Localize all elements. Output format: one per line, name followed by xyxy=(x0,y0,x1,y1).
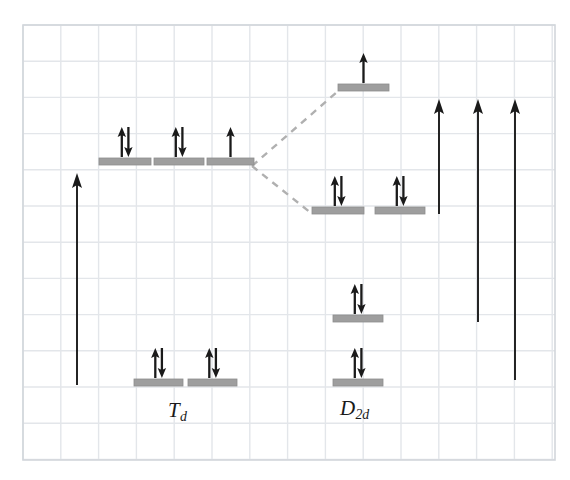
label-d2d-subscript: 2d xyxy=(355,407,369,422)
electron-d2d-low-1-down xyxy=(357,284,365,314)
energy-level-td-upper-3 xyxy=(207,158,254,165)
energy-level-td-lower-1 xyxy=(134,379,183,386)
energy-level-td-lower-2 xyxy=(188,379,237,386)
label-td: Td xyxy=(168,398,187,425)
electron-td-lower-2-down xyxy=(212,348,220,378)
background-grid xyxy=(23,25,555,460)
label-d2d: D2d xyxy=(340,396,369,423)
label-d2d-symbol: D xyxy=(340,396,355,420)
orbital-diagram xyxy=(0,0,570,480)
correlation-lines-layer xyxy=(252,92,337,213)
electron-d2d-low-1-up xyxy=(351,284,359,314)
energy-level-td-upper-1 xyxy=(99,158,151,165)
label-td-subscript: d xyxy=(180,409,187,424)
electron-td-upper-2-down xyxy=(178,127,186,157)
energy-level-d2d-mid-1 xyxy=(312,207,364,214)
energy-level-d2d-mid-2 xyxy=(375,207,425,214)
energy-levels-layer xyxy=(99,84,425,386)
electron-d2d-mid-2-up xyxy=(393,176,401,206)
electron-d2d-mid-1-down xyxy=(337,176,345,206)
electron-d2d-low-2-down xyxy=(357,348,365,378)
electron-td-upper-1-up xyxy=(118,127,126,157)
energy-level-d2d-top-1 xyxy=(338,84,389,91)
electron-d2d-top-1-up xyxy=(359,53,367,83)
electron-d2d-mid-1-up xyxy=(331,176,339,206)
energy-level-d2d-low-1 xyxy=(333,315,383,322)
transition-arrow-d2d-2 xyxy=(473,99,483,322)
transition-arrow-d2d-1 xyxy=(434,99,444,214)
electron-td-lower-1-up xyxy=(151,348,159,378)
figure-canvas: Td D2d xyxy=(0,0,570,480)
correlation-line-up xyxy=(252,92,337,166)
electron-d2d-low-2-up xyxy=(351,348,359,378)
transition-arrow-d2d-3 xyxy=(510,99,520,380)
electron-spin-arrows-layer xyxy=(118,53,408,378)
label-td-symbol: T xyxy=(168,398,180,422)
electron-td-lower-1-down xyxy=(158,348,166,378)
energy-level-td-upper-2 xyxy=(154,158,204,165)
electron-td-upper-3-up xyxy=(226,127,234,157)
energy-level-d2d-low-2 xyxy=(333,379,383,386)
electron-td-upper-1-down xyxy=(124,127,132,157)
electron-td-upper-2-up xyxy=(172,127,180,157)
